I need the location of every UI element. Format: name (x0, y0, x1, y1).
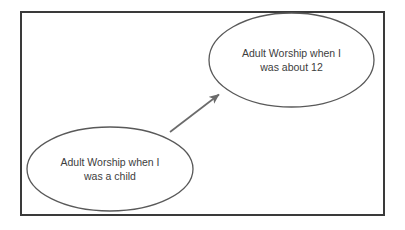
node-adult-worship-as-child[interactable]: Adult Worship when I was a child (27, 127, 193, 211)
node-label-about-12-line-1: Adult Worship when I (242, 47, 341, 59)
node-label-as-child-line-2: was a child (83, 170, 136, 182)
diagram-canvas: Adult Worship when I was about 12 Adult … (0, 0, 405, 230)
node-label-as-child-line-1: Adult Worship when I (60, 156, 159, 168)
node-adult-worship-about-12[interactable]: Adult Worship when I was about 12 (209, 13, 374, 107)
node-label-about-12-line-2: was about 12 (259, 61, 323, 73)
